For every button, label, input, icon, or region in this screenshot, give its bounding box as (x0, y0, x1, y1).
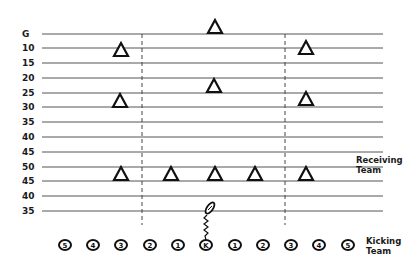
receiving-label-line2: Team (356, 165, 403, 175)
receiving-player-triangle-icon (299, 92, 313, 105)
kicking-player-number: 4 (91, 242, 96, 250)
yard-label: 30 (22, 102, 44, 112)
receiving-label-line1: Receiving (356, 155, 403, 165)
receiving-player-triangle-icon (114, 167, 128, 180)
yard-label: G (22, 29, 44, 39)
ball-flight-squiggle (204, 215, 208, 240)
kicking-player-number: 3 (289, 242, 294, 250)
yard-label: 15 (22, 58, 44, 68)
receiving-player-triangle-icon (114, 43, 128, 56)
yard-label: 25 (22, 88, 44, 98)
receiving-player-triangle-icon (113, 94, 127, 107)
kicking-player-number: 4 (317, 242, 322, 250)
receiving-player-triangle-icon (207, 79, 221, 92)
yard-label: 40 (22, 191, 44, 201)
kicking-player-number: 2 (261, 242, 266, 250)
yard-label: 35 (22, 206, 44, 216)
kickoff-diagram: 54321K12345 (0, 0, 420, 273)
kicking-player-number: 1 (176, 242, 181, 250)
yard-label: 50 (22, 162, 44, 172)
kicking-team-label: Kicking Team (366, 236, 401, 256)
yard-label: 40 (22, 132, 44, 142)
receiving-player-triangle-icon (208, 20, 222, 33)
kicking-label-line1: Kicking (366, 236, 401, 246)
kicking-player-number: 1 (233, 242, 238, 250)
yard-label: 35 (22, 117, 44, 127)
receiving-player-triangle-icon (164, 167, 178, 180)
yard-label: 45 (22, 176, 44, 186)
kicking-player-number: K (203, 242, 209, 250)
kicking-player-number: 5 (346, 242, 351, 250)
yard-label: 20 (22, 73, 44, 83)
yard-label: 10 (22, 43, 44, 53)
kicking-player-number: 3 (119, 242, 124, 250)
receiving-player-triangle-icon (248, 167, 262, 180)
kicking-label-line2: Team (366, 246, 401, 256)
kicking-player-number: 2 (148, 242, 153, 250)
yard-label: 45 (22, 147, 44, 157)
receiving-player-triangle-icon (208, 167, 222, 180)
kicking-player-number: 5 (63, 242, 68, 250)
receiving-player-triangle-icon (299, 167, 313, 180)
receiving-team-label: Receiving Team (356, 155, 403, 175)
